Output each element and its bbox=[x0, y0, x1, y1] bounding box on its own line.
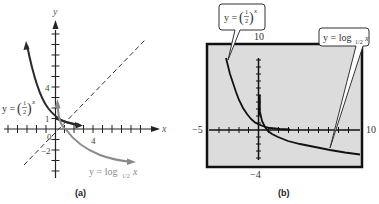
y-axis-label: y bbox=[52, 6, 58, 17]
svg-text:1: 1 bbox=[245, 8, 248, 15]
exp-curve-arrow-right-icon bbox=[75, 122, 83, 129]
exp-curve-arrow-up-icon bbox=[24, 41, 30, 50]
ymin-label: −4 bbox=[250, 169, 261, 180]
svg-text:2: 2 bbox=[245, 17, 248, 24]
svg-text:1/2: 1/2 bbox=[355, 39, 363, 45]
svg-text:(: ( bbox=[239, 10, 244, 26]
ymax-label: 10 bbox=[254, 31, 264, 42]
log-curve bbox=[58, 104, 133, 162]
x-axis-arrow-icon bbox=[151, 126, 160, 132]
svg-text:x: x bbox=[364, 34, 369, 43]
panel-b: 10 −4 −5 10 bbox=[192, 4, 376, 198]
caption-a: (a) bbox=[75, 188, 86, 198]
calculator-screen bbox=[207, 44, 362, 167]
svg-text:y = log: y = log bbox=[89, 166, 117, 177]
svg-text:x: x bbox=[31, 98, 36, 106]
panel-a: y x 4 1 0 4 −2 y = ( 1 2 ) x y = log 1/2… bbox=[2, 6, 167, 198]
svg-text:y = log: y = log bbox=[323, 32, 351, 43]
log-curve-arrow-right-icon bbox=[127, 159, 136, 166]
log-label: y = log 1/2 x bbox=[89, 166, 138, 179]
svg-text:1: 1 bbox=[23, 99, 26, 106]
exp-label: y = ( 1 2 ) x bbox=[2, 98, 36, 117]
svg-text:y =: y = bbox=[2, 103, 16, 114]
svg-text:x: x bbox=[132, 166, 138, 177]
tick-label-4y: 4 bbox=[45, 83, 50, 93]
x-axis-label: x bbox=[161, 123, 167, 134]
exp-curve bbox=[27, 45, 80, 126]
figure: y x 4 1 0 4 −2 y = ( 1 2 ) x y = log 1/2… bbox=[0, 0, 379, 204]
tick-label-0: 0 bbox=[47, 132, 52, 142]
caption-b: (b) bbox=[278, 188, 290, 198]
y-axis-arrow-icon bbox=[53, 20, 59, 29]
svg-text:2: 2 bbox=[23, 108, 26, 115]
svg-text:(: ( bbox=[17, 101, 22, 117]
xmin-label: −5 bbox=[192, 124, 203, 135]
xmax-label: 10 bbox=[366, 124, 376, 135]
tick-label-1: 1 bbox=[45, 114, 50, 124]
svg-text:1/2: 1/2 bbox=[122, 173, 130, 179]
tick-label-neg2: −2 bbox=[41, 146, 51, 156]
tick-label-4x: 4 bbox=[91, 136, 96, 146]
svg-text:y =: y = bbox=[224, 12, 238, 23]
